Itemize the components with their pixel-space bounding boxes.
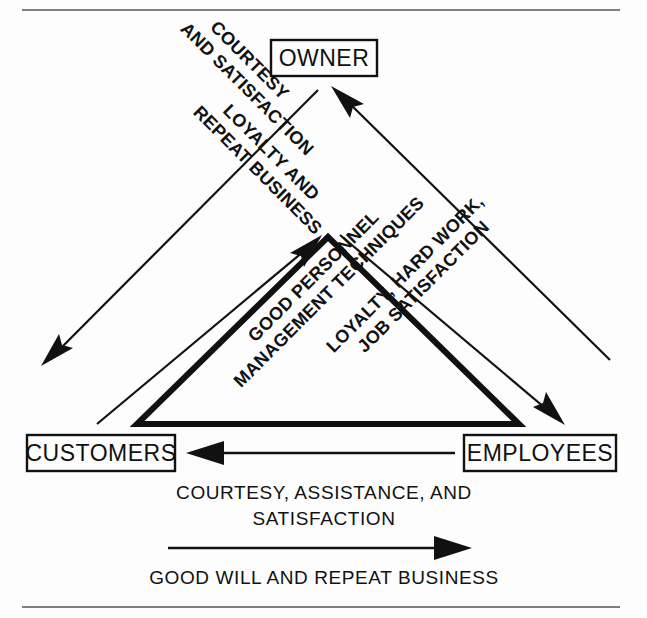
node-label-employees: EMPLOYEES [467, 440, 613, 466]
arrow-employees-to-customers [186, 441, 455, 465]
node-label-customers: CUSTOMERS [25, 440, 176, 466]
edge-label-customers-to-owner-line2: REPEAT BUSINESS [190, 102, 327, 239]
bottom-flow-label-left-line1: COURTESY, ASSISTANCE, AND [176, 482, 472, 503]
relationship-triangle-diagram: OWNER CUSTOMERS EMPLOYEES COURTESY AND S… [0, 0, 647, 618]
bottom-flow-label-left-line2: SATISFACTION [252, 508, 395, 529]
diagram-page: OWNER CUSTOMERS EMPLOYEES COURTESY AND S… [0, 0, 647, 618]
arrow-customers-to-employees [168, 536, 472, 560]
bottom-flow-label-right-line1: GOOD WILL AND REPEAT BUSINESS [149, 567, 499, 588]
node-label-owner: OWNER [279, 45, 370, 71]
